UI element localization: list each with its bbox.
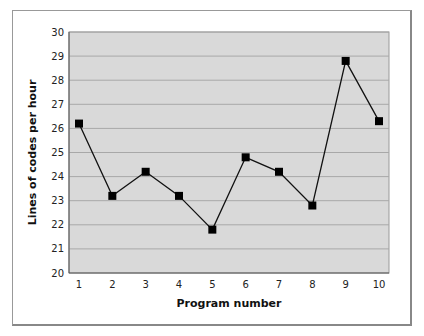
x-tick-label: 3 (142, 279, 148, 290)
y-tick-label: 27 (51, 99, 64, 110)
y-tick-label: 20 (51, 268, 64, 279)
line-chart: 202122232425262728293012345678910Program… (0, 0, 424, 336)
x-tick-label: 1 (76, 279, 82, 290)
y-tick-label: 24 (51, 171, 64, 182)
x-tick-label: 6 (242, 279, 248, 290)
data-point-marker (375, 117, 383, 125)
y-tick-label: 28 (51, 75, 64, 86)
x-tick-label: 10 (373, 279, 386, 290)
x-tick-label: 7 (276, 279, 282, 290)
y-tick-label: 30 (51, 27, 64, 38)
y-tick-label: 21 (51, 243, 64, 254)
y-tick-label: 29 (51, 51, 64, 62)
data-point-marker (175, 192, 183, 200)
x-tick-label: 2 (109, 279, 115, 290)
data-point-marker (142, 168, 150, 176)
y-tick-label: 26 (51, 123, 64, 134)
data-point-marker (275, 168, 283, 176)
data-point-marker (108, 192, 116, 200)
y-tick-label: 25 (51, 147, 64, 158)
x-tick-label: 4 (176, 279, 182, 290)
data-point-marker (208, 226, 216, 234)
y-axis-title: Lines of codes per hour (26, 79, 39, 225)
x-tick-label: 9 (342, 279, 348, 290)
x-tick-label: 5 (209, 279, 215, 290)
data-point-marker (242, 153, 250, 161)
x-axis-title: Program number (177, 297, 283, 310)
x-tick-label: 8 (309, 279, 315, 290)
y-tick-label: 23 (51, 195, 64, 206)
data-point-marker (308, 202, 316, 210)
y-tick-label: 22 (51, 219, 64, 230)
data-point-marker (342, 57, 350, 65)
data-point-marker (75, 120, 83, 128)
